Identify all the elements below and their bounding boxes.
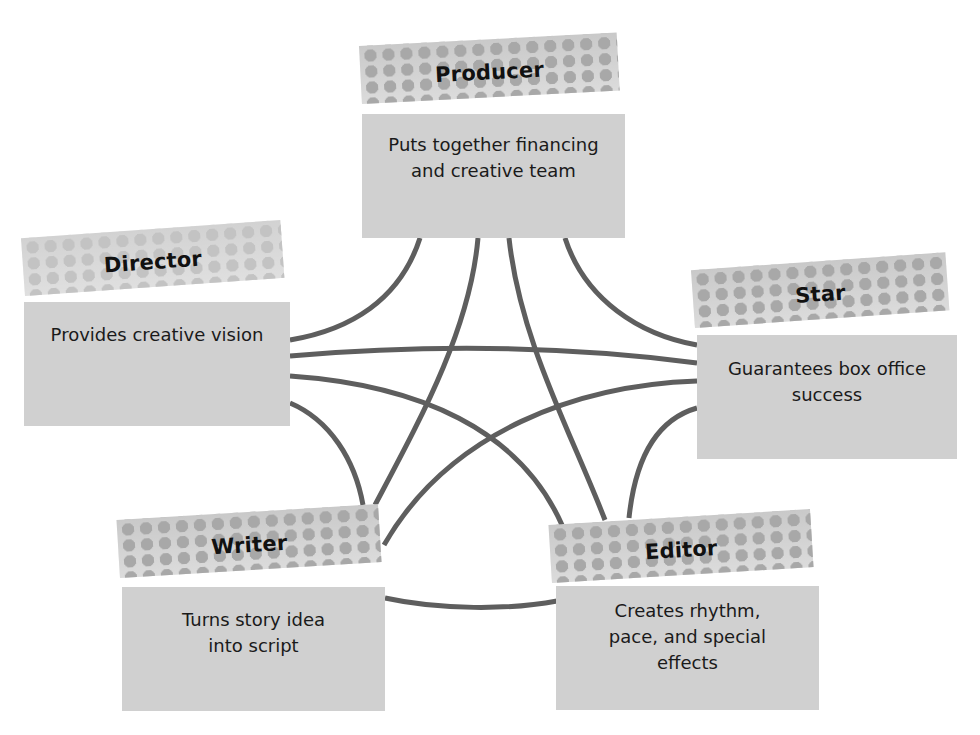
editor-title: Editor xyxy=(644,536,718,564)
link-director-writer xyxy=(290,403,363,505)
link-producer-director xyxy=(290,238,420,340)
writer-description: Turns story idea into script xyxy=(182,607,325,711)
producer-box: Puts together financing and creative tea… xyxy=(362,114,625,238)
link-director-star xyxy=(290,348,697,363)
writer-box: Turns story idea into script xyxy=(122,587,385,711)
link-director-editor xyxy=(290,376,562,525)
link-producer-editor xyxy=(509,238,605,520)
director-description: Provides creative vision xyxy=(51,322,264,426)
star-box: Guarantees box office success xyxy=(697,335,957,459)
star-title: Star xyxy=(794,280,846,307)
collaboration-diagram: Producer Puts together financing and cre… xyxy=(0,0,980,735)
link-producer-writer xyxy=(375,238,478,505)
link-writer-editor xyxy=(385,598,557,607)
star-description: Guarantees box office success xyxy=(728,356,926,459)
writer-title: Writer xyxy=(210,531,288,560)
editor-description: Creates rhythm, pace, and special effect… xyxy=(609,598,766,710)
editor-box: Creates rhythm, pace, and special effect… xyxy=(556,586,819,710)
link-producer-star xyxy=(565,238,697,345)
producer-description: Puts together financing and creative tea… xyxy=(388,132,598,238)
director-title: Director xyxy=(103,247,203,278)
producer-title: Producer xyxy=(435,57,545,87)
link-star-editor xyxy=(629,408,697,518)
director-box: Provides creative vision xyxy=(24,302,290,426)
